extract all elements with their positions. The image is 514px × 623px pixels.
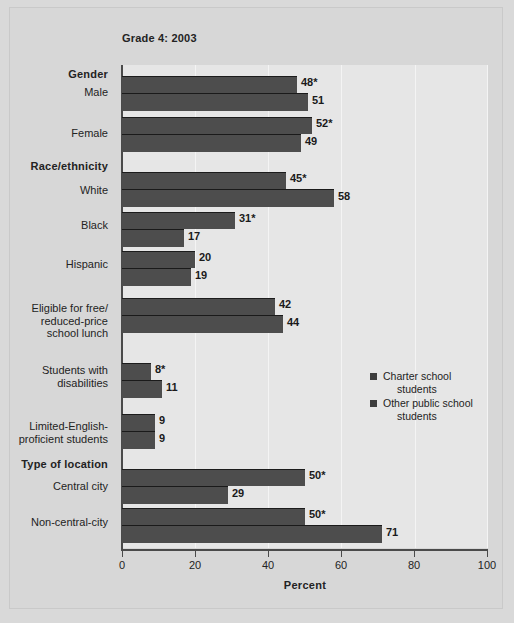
bar-white-charter — [122, 172, 286, 189]
bar-value-lunch-other: 44 — [287, 316, 299, 328]
bar-disabilities-other — [122, 380, 162, 398]
x-tick-80 — [414, 551, 415, 557]
bar-value-central-city-other: 29 — [232, 487, 244, 499]
x-tick-40 — [268, 551, 269, 557]
x-tick-label-80: 80 — [408, 559, 420, 571]
legend-label-charter-line1: Charter school — [383, 370, 451, 382]
bar-value-black-other: 17 — [188, 230, 200, 242]
legend-label-other-line2: students — [383, 410, 473, 423]
bar-lunch-charter — [122, 298, 275, 315]
bar-hispanic-other — [122, 268, 191, 286]
bar-value-hispanic-charter: 20 — [199, 251, 211, 263]
x-tick-label-40: 40 — [262, 559, 274, 571]
bar-central-city-other — [122, 486, 228, 504]
bar-value-white-charter: 45* — [290, 172, 307, 184]
bar-value-non-central-city-charter: 50* — [309, 508, 326, 520]
bar-value-female-other: 49 — [305, 135, 317, 147]
bar-value-female-charter: 52* — [316, 117, 333, 129]
chart-frame: Grade 4: 2003 0 20 40 60 80 100 Percent … — [10, 8, 502, 608]
category-label-lep: Limited-English- proficient students — [19, 420, 108, 445]
bar-white-other — [122, 189, 334, 207]
bar-lep-other — [122, 431, 155, 449]
category-label-female: Female — [71, 127, 108, 140]
x-tick-20 — [195, 551, 196, 557]
bar-central-city-charter — [122, 469, 305, 486]
bar-hispanic-charter — [122, 251, 195, 268]
x-axis-title: Percent — [122, 579, 488, 591]
category-label-non-central-city: Non-central-city — [31, 516, 108, 529]
group-header-race: Race/ethnicity — [31, 160, 108, 173]
group-header-gender: Gender — [68, 68, 108, 81]
gridline-100 — [487, 65, 488, 548]
gridline-60 — [341, 65, 342, 548]
legend-swatch-other-public-icon — [370, 400, 377, 407]
chart-legend: Charter school students Other public sch… — [370, 370, 473, 424]
bar-non-central-city-other — [122, 525, 382, 543]
bar-black-other — [122, 229, 184, 247]
bar-value-disabilities-other: 11 — [166, 381, 178, 393]
bar-value-male-charter: 48* — [301, 76, 318, 88]
chart-title: Grade 4: 2003 — [122, 32, 197, 44]
bar-value-male-other: 51 — [312, 94, 324, 106]
bar-value-lunch-charter: 42 — [279, 298, 291, 310]
legend-item-charter: Charter school students — [370, 370, 473, 396]
bar-value-disabilities-charter: 8* — [155, 363, 165, 375]
bar-value-black-charter: 31* — [239, 212, 256, 224]
bar-black-charter — [122, 212, 235, 229]
category-label-white: White — [80, 184, 108, 197]
bar-value-lep-charter: 9 — [159, 414, 165, 426]
legend-item-other-public: Other public school students — [370, 397, 473, 423]
category-label-disabilities: Students with disabilities — [42, 364, 108, 389]
legend-label-other-line1: Other public school — [383, 397, 473, 409]
bar-lep-charter — [122, 414, 155, 431]
bar-lunch-other — [122, 315, 283, 333]
category-label-black: Black — [81, 219, 108, 232]
legend-label-charter-line2: students — [383, 383, 473, 396]
x-tick-label-0: 0 — [119, 559, 125, 571]
x-tick-60 — [341, 551, 342, 557]
bar-non-central-city-charter — [122, 508, 305, 525]
bar-value-central-city-charter: 50* — [309, 469, 326, 481]
bar-value-white-other: 58 — [338, 190, 350, 202]
x-tick-label-20: 20 — [189, 559, 201, 571]
group-header-location: Type of location — [21, 458, 108, 471]
category-label-lunch: Eligible for free/ reduced-price school … — [32, 302, 108, 340]
legend-swatch-charter-icon — [370, 373, 377, 380]
bar-female-charter — [122, 117, 312, 134]
bar-disabilities-charter — [122, 363, 151, 380]
bar-male-charter — [122, 76, 297, 93]
gridline-80 — [415, 65, 416, 548]
x-tick-100 — [487, 551, 488, 557]
chart-figure: Grade 4: 2003 0 20 40 60 80 100 Percent … — [0, 0, 514, 623]
bar-value-lep-other: 9 — [159, 432, 165, 444]
bar-male-other — [122, 93, 308, 111]
x-axis-line — [121, 549, 488, 551]
category-label-central-city: Central city — [53, 480, 108, 493]
bar-female-other — [122, 134, 301, 152]
category-label-male: Male — [84, 86, 108, 99]
x-tick-label-60: 60 — [335, 559, 347, 571]
x-tick-label-100: 100 — [478, 559, 496, 571]
bar-value-hispanic-other: 19 — [195, 269, 207, 281]
category-label-hispanic: Hispanic — [66, 258, 108, 271]
bar-value-non-central-city-other: 71 — [386, 526, 398, 538]
x-tick-0 — [122, 551, 123, 557]
